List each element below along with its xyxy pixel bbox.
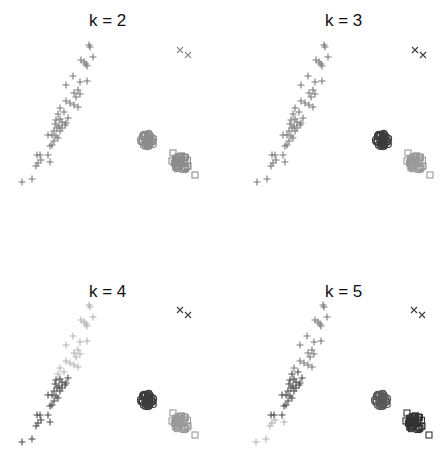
plus-marker <box>279 392 286 399</box>
plus-marker <box>311 339 318 346</box>
plus-marker <box>45 152 52 159</box>
plus-marker <box>254 179 261 186</box>
plus-marker <box>29 436 36 443</box>
plus-marker <box>53 117 60 124</box>
plus-marker <box>70 333 77 340</box>
plus-marker <box>19 439 26 446</box>
plus-marker <box>45 132 52 139</box>
plus-marker <box>325 54 332 61</box>
plus-marker <box>57 365 64 372</box>
plus-marker <box>84 78 91 85</box>
plus-marker <box>280 152 287 159</box>
plus-marker <box>253 439 260 446</box>
scatter-panel-k3: k = 3 <box>223 0 446 232</box>
scatter-plot <box>223 232 446 464</box>
plus-marker <box>47 419 54 426</box>
plus-marker <box>45 392 52 399</box>
plus-marker <box>280 132 287 139</box>
x-marker <box>185 52 191 58</box>
plus-marker <box>281 419 288 426</box>
scatter-panel-k2: k = 2 <box>0 0 223 232</box>
plus-marker <box>291 365 298 372</box>
square-marker <box>427 172 433 178</box>
plus-marker <box>61 109 68 116</box>
x-marker <box>420 52 426 58</box>
plus-marker <box>287 377 294 384</box>
plus-marker <box>319 78 326 85</box>
plus-marker <box>84 338 91 345</box>
plus-marker <box>279 412 286 419</box>
plus-marker <box>297 342 304 349</box>
x-marker <box>412 47 418 53</box>
plus-marker <box>61 369 68 376</box>
x-marker <box>177 47 183 53</box>
x-marker <box>185 312 191 318</box>
scatter-plot <box>0 232 223 464</box>
plus-marker <box>263 436 270 443</box>
square-marker <box>426 432 432 438</box>
plus-marker <box>292 105 299 112</box>
plus-marker <box>324 314 331 321</box>
x-marker <box>411 307 417 313</box>
scatter-plot <box>0 0 223 232</box>
plus-marker <box>57 105 64 112</box>
plus-marker <box>90 54 97 61</box>
plus-marker <box>298 82 305 89</box>
plus-marker <box>318 338 325 345</box>
x-marker <box>177 307 183 313</box>
plus-marker <box>70 73 77 80</box>
plus-marker <box>264 176 271 183</box>
plus-marker <box>295 369 302 376</box>
plus-marker <box>19 179 26 186</box>
x-marker <box>419 312 425 318</box>
plus-marker <box>53 377 60 384</box>
plus-marker <box>304 333 311 340</box>
plus-marker <box>77 339 84 346</box>
plus-marker <box>63 342 70 349</box>
scatter-panel-k4: k = 4 <box>0 232 223 464</box>
plus-marker <box>288 117 295 124</box>
square-marker <box>192 172 198 178</box>
plus-marker <box>282 159 289 166</box>
plus-marker <box>305 73 312 80</box>
scatter-plot <box>223 0 446 232</box>
scatter-panel-k5: k = 5 <box>223 232 446 464</box>
plus-marker <box>312 79 319 86</box>
plus-marker <box>77 79 84 86</box>
plus-marker <box>296 109 303 116</box>
plus-marker <box>29 176 36 183</box>
plus-marker <box>45 412 52 419</box>
plus-marker <box>63 82 70 89</box>
plus-marker <box>90 314 97 321</box>
plus-marker <box>47 159 54 166</box>
square-marker <box>192 432 198 438</box>
